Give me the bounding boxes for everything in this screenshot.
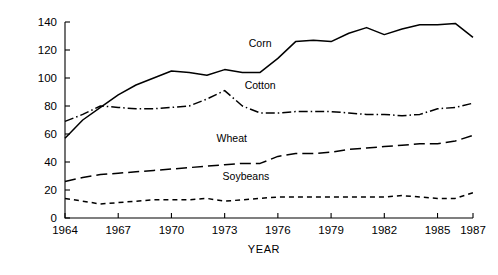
x-tick-label: 1967 xyxy=(105,224,131,236)
y-tick-label: 0 xyxy=(51,212,57,224)
series-label-corn: Corn xyxy=(249,37,272,49)
y-tick-label: 20 xyxy=(44,184,57,196)
x-tick-label: 1985 xyxy=(425,224,451,236)
x-tick-label: 1979 xyxy=(318,224,344,236)
axes xyxy=(65,22,473,218)
y-tick-label: 40 xyxy=(44,156,57,168)
series-line-cotton xyxy=(65,91,473,122)
x-axis-label: YEAR xyxy=(0,243,498,255)
axis-lines xyxy=(65,22,473,218)
x-tick-label: 1982 xyxy=(372,224,398,236)
y-tick-label: 120 xyxy=(38,44,57,56)
chart-figure: NITROGEN/ACRE (lb) 020406080100120140 19… xyxy=(0,0,498,275)
y-tick-label: 80 xyxy=(44,100,57,112)
x-tick-label: 1973 xyxy=(212,224,238,236)
x-tick-label: 1964 xyxy=(52,224,78,236)
series-line-soybeans xyxy=(65,193,473,204)
series-label-soybeans: Soybeans xyxy=(223,170,270,182)
series-label-cotton: Cotton xyxy=(245,79,276,91)
y-tick-label: 100 xyxy=(38,72,57,84)
y-tick-label: 60 xyxy=(44,128,57,140)
series-labels: CornCottonWheatSoybeans xyxy=(217,37,276,182)
series-label-wheat: Wheat xyxy=(217,132,247,144)
y-tick-label: 140 xyxy=(38,16,57,28)
line-chart-plot: 020406080100120140 196419671970197319761… xyxy=(0,0,498,275)
x-axis-label-text: YEAR xyxy=(218,243,280,255)
x-tick-label: 1970 xyxy=(159,224,185,236)
x-tick-label: 1976 xyxy=(265,224,291,236)
x-tick-label: 1987 xyxy=(460,224,486,236)
x-axis-ticks: 196419671970197319761979198219851987 xyxy=(52,213,486,236)
